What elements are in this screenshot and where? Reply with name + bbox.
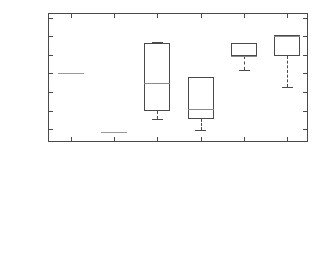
figure-canvas: Balance [k€] -136-138-140-142-144-146-14… — [0, 0, 321, 259]
plot-area — [48, 13, 308, 142]
boxplot-whisker-lower — [287, 56, 288, 87]
boxplot-median-line — [274, 36, 300, 37]
boxplot-iqr-rect[interactable] — [274, 35, 300, 56]
boxplot-cap-lower — [282, 87, 293, 88]
boxplot-box[interactable] — [49, 14, 307, 141]
